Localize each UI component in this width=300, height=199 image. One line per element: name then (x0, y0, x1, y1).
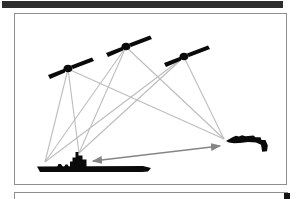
diagram-frame (14, 13, 287, 185)
figure-canvas (0, 0, 300, 199)
top-rule-bar (2, 1, 283, 8)
corner-mark (284, 193, 290, 199)
next-figure-frame (14, 192, 288, 199)
